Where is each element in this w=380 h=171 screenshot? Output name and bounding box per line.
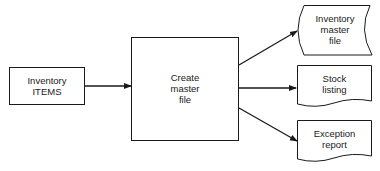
process-label: Create master file <box>132 38 238 138</box>
input-label: Inventory ITEMS <box>10 68 84 104</box>
master-file-label: Inventory master file <box>304 6 366 52</box>
edge-process-to-master-file <box>239 31 297 65</box>
stock-listing-label: Stock listing <box>298 66 371 102</box>
edge-process-to-exception-report <box>239 108 297 141</box>
exception-report-label: Exception report <box>298 121 371 157</box>
